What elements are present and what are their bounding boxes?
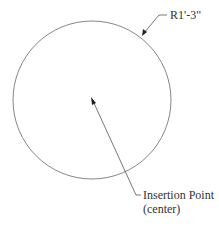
insertion-arrowhead-icon	[91, 97, 96, 105]
insertion-center-label: (center)	[143, 203, 180, 216]
insertion-point-label: Insertion Point	[143, 189, 214, 202]
diagram-canvas: R1'-3" Insertion Point (center)	[0, 0, 219, 227]
radius-leader-line	[144, 15, 167, 33]
insertion-leader-line	[93, 101, 141, 195]
radius-label: R1'-3"	[170, 9, 201, 22]
